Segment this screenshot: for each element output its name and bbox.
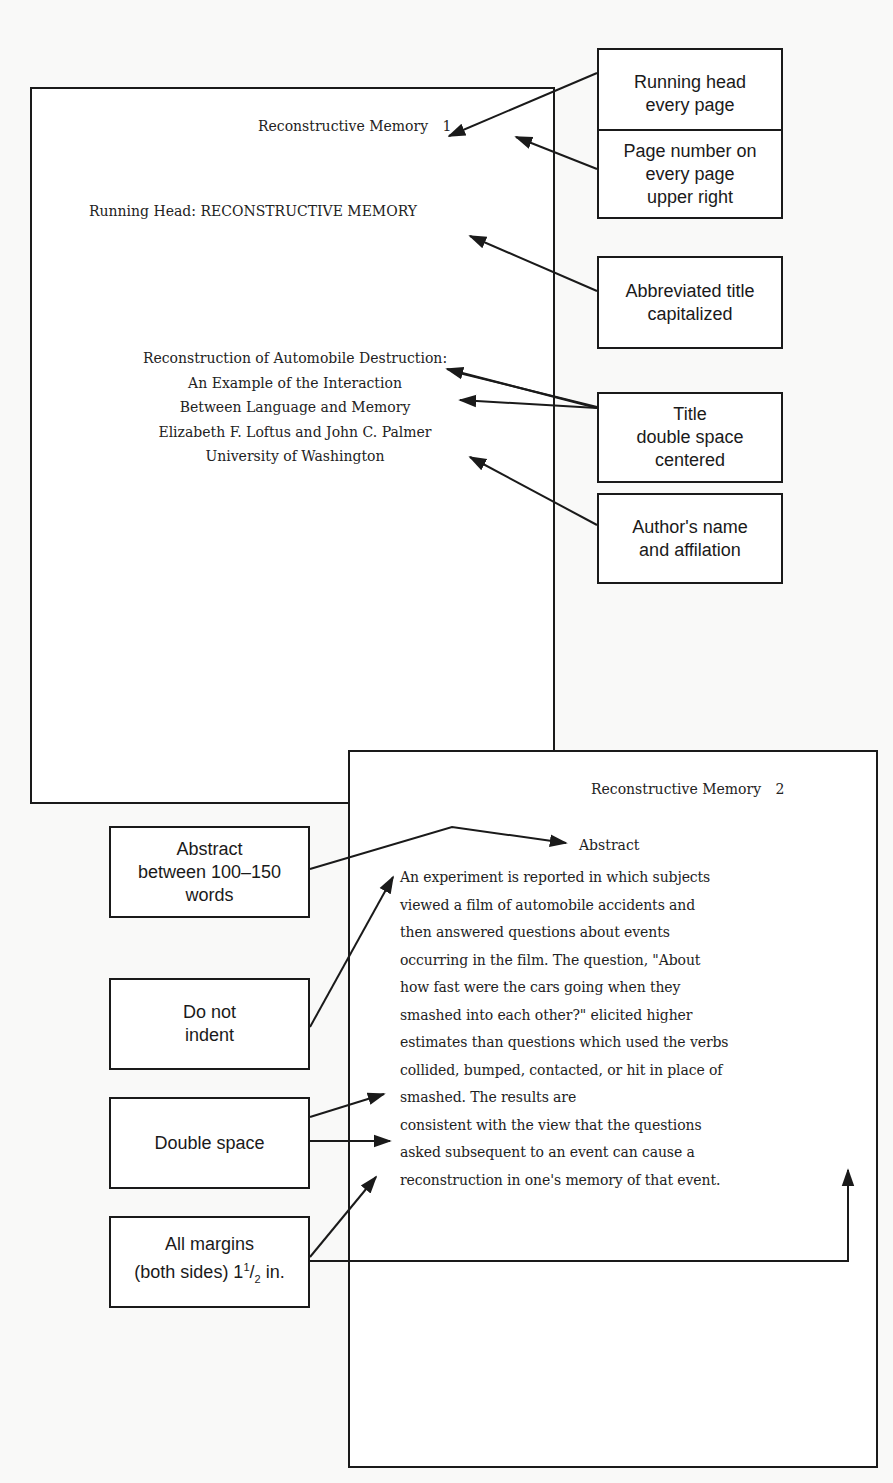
- running-head-label: Running Head: RECONSTRUCTIVE MEMORY: [89, 203, 417, 219]
- page2-running-head: Reconstructive Memory: [591, 781, 761, 797]
- abstract-line: smashed. The results are: [400, 1084, 728, 1112]
- callout-abbreviated-title-text: Abbreviated title capitalized: [625, 280, 754, 326]
- abstract-heading: Abstract: [579, 837, 639, 853]
- page2-page-number: 2: [776, 781, 785, 797]
- callout-abbreviated-title: Abbreviated title capitalized: [597, 256, 783, 349]
- authors: Elizabeth F. Loftus and John C. Palmer: [60, 420, 530, 445]
- title-line-2: An Example of the Interaction: [60, 371, 530, 396]
- abstract-line: smashed into each other?" elicited highe…: [400, 1002, 728, 1030]
- callout-page-number: Page number on every page upper right: [597, 129, 783, 219]
- abstract-line: estimates than questions which used the …: [400, 1029, 728, 1057]
- page1-header: Reconstructive Memory 1: [258, 118, 452, 134]
- callout-running-head-text: Running head every page: [634, 71, 746, 117]
- title-block: Reconstruction of Automobile Destruction…: [60, 346, 530, 469]
- abstract-line: how fast were the cars going when they: [400, 974, 728, 1002]
- callout-abstract-text: Abstract between 100–150 words: [138, 838, 281, 907]
- margins-prefix: All margins (both sides) 1: [134, 1234, 254, 1282]
- abstract-line: viewed a film of automobile accidents an…: [400, 892, 728, 920]
- callout-margins: All margins (both sides) 11/2 in.: [109, 1216, 310, 1308]
- page1-page-number: 1: [443, 118, 452, 134]
- callout-abstract: Abstract between 100–150 words: [109, 826, 310, 918]
- callout-double-space: Double space: [109, 1097, 310, 1189]
- abstract-line: then answered questions about events: [400, 919, 728, 947]
- callout-title-text: Title double space centered: [636, 403, 743, 472]
- page1-running-head: Reconstructive Memory: [258, 118, 428, 134]
- callout-margins-text: All margins (both sides) 11/2 in.: [134, 1233, 284, 1291]
- abstract-line: consistent with the view that the questi…: [400, 1112, 728, 1140]
- title-line-1: Reconstruction of Automobile Destruction…: [60, 346, 530, 371]
- abstract-line: occurring in the film. The question, "Ab…: [400, 947, 728, 975]
- abstract-body: An experiment is reported in which subje…: [400, 864, 728, 1194]
- margins-suffix: in.: [261, 1262, 285, 1282]
- abstract-line: reconstruction in one's memory of that e…: [400, 1167, 728, 1195]
- page2-header: Reconstructive Memory 2: [591, 781, 785, 797]
- callout-double-space-text: Double space: [154, 1132, 264, 1155]
- callout-running-head: Running head every page: [597, 48, 783, 140]
- abstract-line: collided, bumped, contacted, or hit in p…: [400, 1057, 728, 1085]
- margins-sup: 1: [243, 1261, 249, 1273]
- callout-title: Title double space centered: [597, 392, 783, 483]
- title-line-3: Between Language and Memory: [60, 395, 530, 420]
- affiliation: University of Washington: [60, 444, 530, 469]
- callout-no-indent: Do not indent: [109, 978, 310, 1070]
- callout-page-number-text: Page number on every page upper right: [623, 140, 756, 209]
- callout-author: Author's name and affilation: [597, 493, 783, 584]
- callout-author-text: Author's name and affilation: [632, 516, 748, 562]
- callout-no-indent-text: Do not indent: [183, 1001, 236, 1047]
- abstract-line: An experiment is reported in which subje…: [400, 864, 728, 892]
- abstract-line: asked subsequent to an event can cause a: [400, 1139, 728, 1167]
